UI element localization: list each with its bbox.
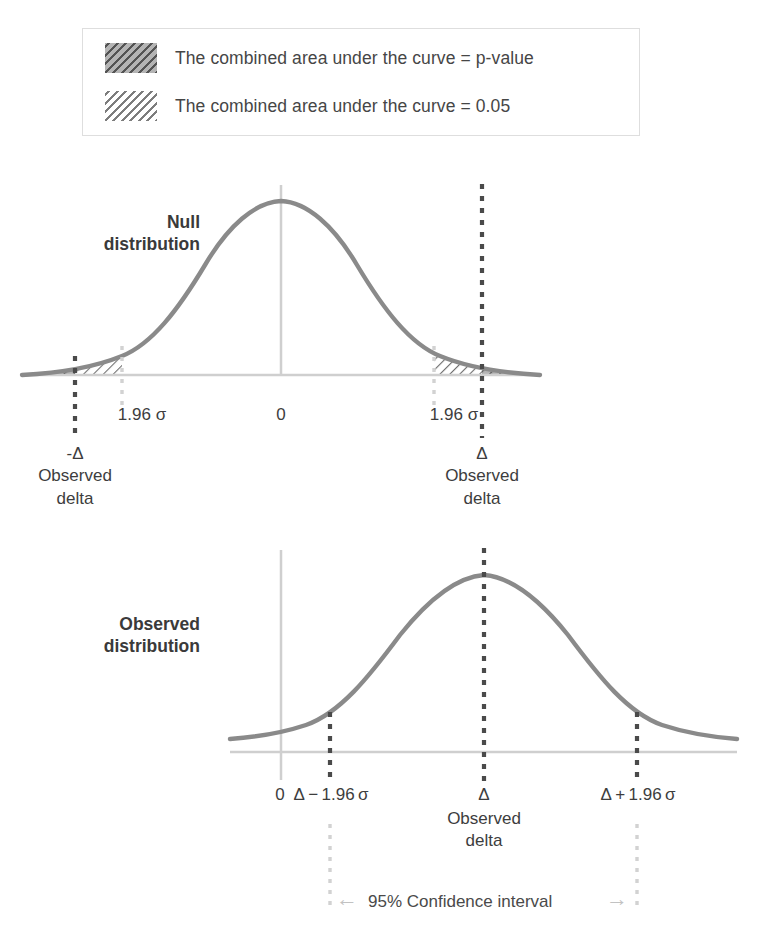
- null-annotation-minus-delta: -Δ Observed delta: [15, 443, 135, 510]
- null-tick-center: 0: [241, 404, 321, 426]
- ci-label: 95% Confidence interval: [368, 892, 552, 912]
- ci-right-arrow-icon: →: [606, 888, 628, 910]
- statistics-figure: The combined area under the curve = p-va…: [0, 0, 762, 941]
- observed-tick-delta: Δ: [434, 784, 534, 806]
- null-distribution-plot: [0, 160, 762, 580]
- ci-left-arrow-icon: ←: [336, 888, 358, 910]
- legend-item-label: The combined area under the curve = p-va…: [175, 48, 534, 69]
- confidence-interval-guides: [0, 824, 762, 934]
- null-tick-right-sigma: 1.96 σ: [394, 404, 514, 426]
- hatched-white-fill-swatch-icon: [105, 91, 157, 121]
- hatched-gray-fill-swatch-icon: [105, 43, 157, 73]
- legend-item-alpha: The combined area under the curve = 0.05: [105, 91, 510, 121]
- legend-item-label: The combined area under the curve = 0.05: [175, 96, 510, 117]
- legend-box: The combined area under the curve = p-va…: [82, 28, 640, 136]
- null-tick-left-sigma: 1.96 σ: [82, 404, 202, 426]
- observed-tick-upper-bound: Δ + 1.96 σ: [572, 784, 704, 806]
- observed-tick-lower-bound: Δ − 1.96 σ: [265, 784, 397, 806]
- legend-item-pvalue: The combined area under the curve = p-va…: [105, 43, 534, 73]
- null-annotation-plus-delta: Δ Observed delta: [422, 443, 542, 510]
